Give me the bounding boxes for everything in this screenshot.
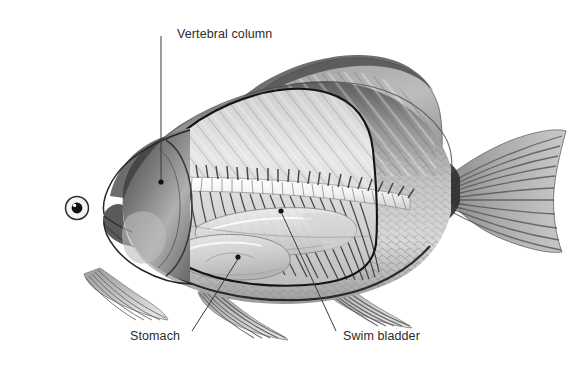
leader-dot-stomach: [235, 254, 240, 259]
leader-dot-swim-bladder: [278, 208, 283, 213]
fish-eye: [66, 197, 89, 220]
figure-page: Vertebral column Stomach Swim bladder: [0, 0, 575, 377]
label-vertebral-column: Vertebral column: [177, 27, 272, 41]
leader-dot-vertebral-column: [158, 179, 163, 184]
label-stomach: Stomach: [130, 329, 180, 343]
fish-anatomy-illustration: [0, 0, 575, 377]
label-swim-bladder: Swim bladder: [343, 329, 420, 343]
